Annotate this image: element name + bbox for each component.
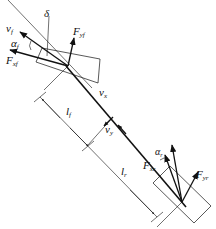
vehicle-body-axis xyxy=(66,66,186,207)
vehicle-dynamics-diagram: vf δ αf Fxf Fyf vx vy lf lr αr Fxr Fyr xyxy=(0,0,216,229)
label-vf: vf xyxy=(6,22,14,36)
label-alpha-r: αr xyxy=(155,146,163,158)
label-lr: lr xyxy=(121,165,127,179)
label-lf: lf xyxy=(66,105,72,119)
label-fxr: Fxr xyxy=(142,159,156,173)
delta-line xyxy=(47,16,49,56)
alpha-f-arc xyxy=(30,41,32,50)
tick-rear xyxy=(151,212,163,222)
label-vx: vx xyxy=(99,86,108,100)
label-fxf: Fxf xyxy=(5,54,19,68)
label-vy: vy xyxy=(105,123,114,137)
front-perpendicular-line xyxy=(44,66,68,90)
label-alpha-f: αf xyxy=(11,37,20,51)
rear-perpendicular-line xyxy=(157,202,182,227)
tick-front xyxy=(34,92,46,102)
label-fyf: Fyf xyxy=(72,25,86,39)
lf-dim-arrow-end xyxy=(70,128,88,146)
tick-cg xyxy=(82,141,94,151)
label-delta: δ xyxy=(44,7,50,19)
fxf-arrow xyxy=(10,50,68,66)
lr-dim-arrow-end xyxy=(130,190,154,214)
steer-reference-line xyxy=(8,0,92,88)
fyf-arrow xyxy=(68,38,74,66)
label-fyr: Fyr xyxy=(195,168,209,182)
vf-arrow xyxy=(20,32,68,66)
fxr-arrow xyxy=(165,155,182,202)
lf-dim-arrow-start xyxy=(42,99,60,118)
